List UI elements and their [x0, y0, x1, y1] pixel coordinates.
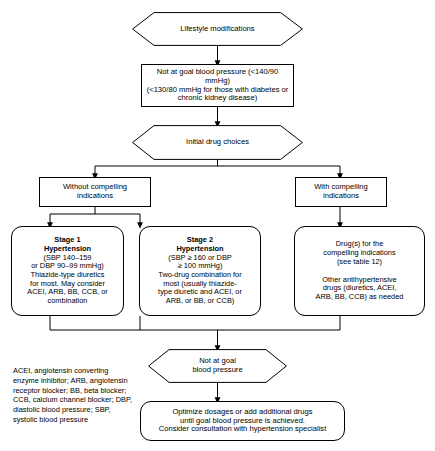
stage-2-heading1: Stage 2 [187, 235, 213, 244]
stage-2-line6: ARB, or BB, or CCB) [143, 297, 257, 306]
node-optimize-text: Optimize dosages or add additional drugs… [141, 408, 344, 435]
node-not-at-goal-bottom-text: Not at goal blood pressure [148, 349, 287, 383]
node-with-compelling-text: With compelling indications [296, 183, 386, 201]
node-optimize-dosages: Optimize dosages or add additional drugs… [140, 401, 345, 441]
node-without-compelling-text: Without compelling indications [40, 183, 150, 201]
node-stage-1-hypertension: Stage 1 Hypertension (SBP 140–159 or DBP… [11, 226, 124, 316]
not-at-goal-top-line1: Not at goal blood pressure (<140/90 mmHg… [145, 68, 290, 86]
node-not-at-goal-top-text: Not at goal blood pressure (<140/90 mmHg… [142, 68, 293, 104]
node-compelling-drugs-text: Drug(s) for the compelling indications (… [295, 240, 424, 301]
compelling-drugs-line3: (see table 12) [298, 258, 421, 267]
hypertension-treatment-flowchart: Lifestyle modifications Not at goal bloo… [0, 0, 435, 451]
node-initial-drug-choices-label: Initial drug choices [132, 125, 303, 160]
abbreviations-legend: ACEI, angiotensin converting enzyme inhi… [13, 366, 135, 425]
with-compelling-line2: indications [299, 192, 383, 201]
stage-1-heading1: Stage 1 [54, 235, 80, 244]
node-stage-2-hypertension: Stage 2 Hypertension (SBP ≥ 160 or DBP ≥… [139, 226, 261, 316]
compelling-drugs-line6: ARB, BB, CCB) as needed [298, 293, 421, 302]
node-lifestyle-modifications: Lifestyle modifications [132, 12, 303, 46]
node-not-at-goal-top: Not at goal blood pressure (<140/90 mmHg… [141, 64, 294, 107]
not-at-goal-bottom-line2: blood pressure [192, 366, 242, 375]
node-compelling-indication-drugs: Drug(s) for the compelling indications (… [294, 226, 425, 316]
node-not-at-goal-bottom: Not at goal blood pressure [148, 349, 287, 383]
node-stage-2-text: Stage 2 Hypertension (SBP ≥ 160 or DBP ≥… [140, 236, 260, 306]
stage-1-line6: combination [15, 297, 120, 306]
not-at-goal-top-line3: chronic kidney disease) [145, 94, 290, 103]
without-compelling-line2: indications [43, 192, 147, 201]
stage-2-heading2: Hypertension [176, 244, 223, 253]
optimize-line3: Consider consultation with hypertension … [144, 425, 341, 434]
node-without-compelling-indications: Without compelling indications [39, 177, 151, 207]
node-lifestyle-label: Lifestyle modifications [132, 12, 303, 46]
node-with-compelling-indications: With compelling indications [295, 177, 387, 207]
node-initial-drug-choices: Initial drug choices [132, 125, 303, 160]
node-stage-1-text: Stage 1 Hypertension (SBP 140–159 or DBP… [12, 236, 123, 306]
stage-1-heading2: Hypertension [44, 244, 91, 253]
